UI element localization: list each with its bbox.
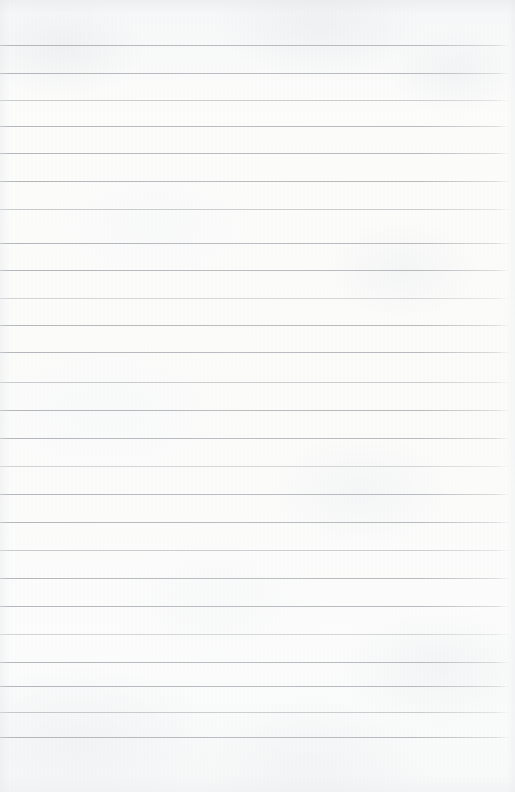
ruling-line	[0, 243, 510, 244]
ruling-line	[0, 606, 510, 607]
ruling-line	[0, 634, 510, 635]
ruling-line	[0, 382, 510, 383]
ruling-line	[0, 126, 510, 127]
lined-paper-page	[0, 0, 515, 792]
ruling-line	[0, 686, 510, 687]
ruling-line	[0, 181, 510, 182]
ruling-line	[0, 737, 510, 738]
ruling-line	[0, 325, 510, 326]
ruling-line	[0, 712, 510, 713]
ruling-line	[0, 662, 510, 663]
ruling-line	[0, 73, 510, 74]
ruling-line	[0, 352, 510, 353]
ruling-line	[0, 153, 510, 154]
ruling-line	[0, 578, 510, 579]
ruling-line	[0, 438, 510, 439]
ruling-line	[0, 270, 510, 271]
ruling-line	[0, 298, 510, 299]
ruling-line	[0, 466, 510, 467]
ruling-line	[0, 209, 510, 210]
ruling-line	[0, 494, 510, 495]
ruling-line	[0, 45, 510, 46]
ruling-line	[0, 522, 510, 523]
ruling-lines-group	[0, 0, 515, 792]
ruling-line	[0, 100, 510, 101]
ruling-line	[0, 550, 510, 551]
ruling-line	[0, 410, 510, 411]
